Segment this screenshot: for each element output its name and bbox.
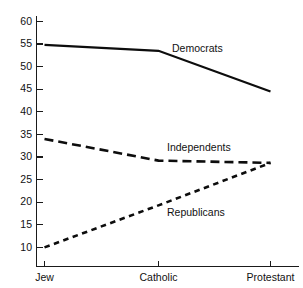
y-tick-marks — [37, 21, 43, 247]
series-line-republicans — [45, 163, 271, 248]
series-labels: Democrats Independents Republicans — [167, 42, 231, 218]
x-tick-label-jew: Jew — [35, 271, 54, 283]
y-tick-label: 40 — [20, 105, 32, 117]
y-tick-label: 45 — [20, 82, 32, 94]
x-tick-label-protestant: Protestant — [247, 271, 295, 283]
series-lines — [45, 45, 271, 248]
series-line-independents — [45, 139, 271, 163]
y-tick-labels: 60 55 50 45 40 35 30 25 20 15 10 — [20, 15, 32, 253]
y-tick-label: 25 — [20, 173, 32, 185]
series-label-republicans: Republicans — [167, 206, 225, 218]
series-line-democrats — [45, 45, 271, 92]
x-tick-label-catholic: Catholic — [140, 271, 178, 283]
y-tick-label: 15 — [20, 218, 32, 230]
y-tick-label: 35 — [20, 128, 32, 140]
chart-canvas: 60 55 50 45 40 35 30 25 20 15 10 Jew Cat… — [0, 0, 303, 288]
y-tick-label: 10 — [20, 241, 32, 253]
y-tick-label: 20 — [20, 195, 32, 207]
y-tick-label: 30 — [20, 150, 32, 162]
x-tick-labels: Jew Catholic Protestant — [35, 271, 294, 283]
y-tick-label: 60 — [20, 15, 32, 27]
y-tick-label: 55 — [20, 37, 32, 49]
series-label-independents: Independents — [167, 141, 231, 153]
x-tick-marks — [45, 261, 271, 267]
line-chart: 60 55 50 45 40 35 30 25 20 15 10 Jew Cat… — [0, 0, 303, 288]
y-tick-label: 50 — [20, 60, 32, 72]
series-label-democrats: Democrats — [172, 42, 223, 54]
